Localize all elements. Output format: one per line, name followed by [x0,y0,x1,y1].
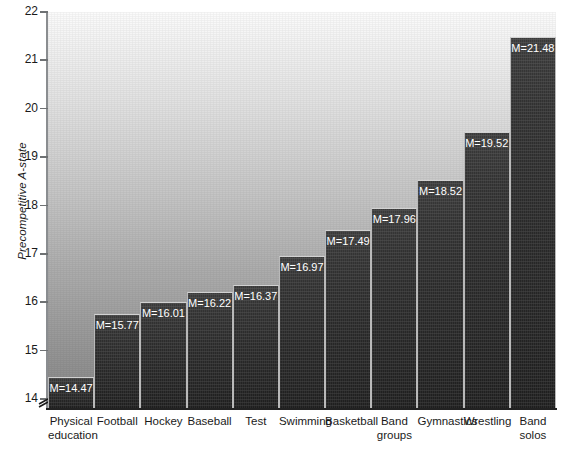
x-category-label: Hockey [140,415,186,429]
bar-texture [280,257,324,409]
x-category-label-line: Wrestling [464,415,510,429]
y-tick-label: 16 [14,294,38,308]
bar-texture [234,286,278,409]
bar[interactable]: M=15.77 [94,314,140,409]
y-tick-mark [40,205,48,207]
bar-texture [511,38,555,409]
x-category-label-line: Basketball [325,415,371,429]
bar-texture [326,231,370,409]
x-axis-line [46,408,557,410]
x-category-label-line: Gymnastics [417,415,463,429]
bar[interactable]: M=16.01 [140,302,186,409]
x-category-label-line: Band [510,415,556,429]
x-category-label: Baseball [187,415,233,429]
y-tick-label: 17 [14,246,38,260]
x-category-label: Wrestling [464,415,510,429]
x-category-label: Bandsolos [510,415,556,442]
bar[interactable]: M=19.52 [464,132,510,409]
y-tick-mark [40,253,48,255]
bar[interactable]: M=17.49 [325,230,371,409]
y-tick-label: 19 [14,149,38,163]
bar-value-label: M=21.48 [511,42,555,54]
y-tick-mark [40,11,48,13]
x-category-label-line: Physical [48,415,94,429]
bar[interactable]: M=17.96 [371,208,417,409]
y-tick-mark [40,156,48,158]
bar-value-label: M=19.52 [465,137,509,149]
x-category-label: Swimming [279,415,325,429]
y-tick-mark [40,301,48,303]
x-category-label: Test [233,415,279,429]
x-category-label-line: Baseball [187,415,233,429]
bar[interactable]: M=14.47 [48,377,94,409]
bar-value-label: M=16.22 [188,297,232,309]
x-category-label-line: Test [233,415,279,429]
y-tick-label: 15 [14,343,38,357]
x-category-label: Gymnastics [417,415,463,429]
y-tick-label: 14 [14,391,38,405]
x-category-label-line: solos [510,429,556,443]
bar-value-label: M=17.96 [372,213,416,225]
bar-texture [465,133,509,409]
plot-area: M=14.47M=15.77M=16.01M=16.22M=16.37M=16.… [48,12,556,409]
y-tick-label: 21 [14,52,38,66]
bar-texture [188,293,232,409]
bar-value-label: M=15.77 [95,319,139,331]
x-category-label: Football [94,415,140,429]
x-category-label-line: Hockey [140,415,186,429]
y-tick-mark [40,108,48,110]
y-tick-label: 18 [14,198,38,212]
bar-value-label: M=16.01 [141,307,185,319]
x-category-label-line: groups [371,429,417,443]
bar-texture [372,209,416,409]
x-category-label-line: Band [371,415,417,429]
x-category-label-line: Football [94,415,140,429]
bar-value-label: M=16.97 [280,261,324,273]
x-category-label-line: Swimming [279,415,325,429]
y-tick-mark [40,350,48,352]
bar[interactable]: M=16.22 [187,292,233,409]
y-tick-mark [40,59,48,61]
x-category-label: Bandgroups [371,415,417,442]
bar[interactable]: M=16.97 [279,256,325,409]
x-category-label: Basketball [325,415,371,429]
x-category-label: Physicaleducation [48,415,94,442]
y-tick-label: 20 [14,101,38,115]
bar-texture [418,181,462,409]
x-category-label-line: education [48,429,94,443]
bar[interactable]: M=21.48 [510,37,556,409]
bar[interactable]: M=18.52 [417,180,463,409]
bar-value-label: M=17.49 [326,235,370,247]
y-tick-label: 22 [14,4,38,18]
bar-value-label: M=16.37 [234,290,278,302]
bar-chart: Precompetitive A-state 14151617181920212… [0,0,565,456]
bar-value-label: M=18.52 [418,185,462,197]
bar[interactable]: M=16.37 [233,285,279,409]
bar-value-label: M=14.47 [49,382,93,394]
